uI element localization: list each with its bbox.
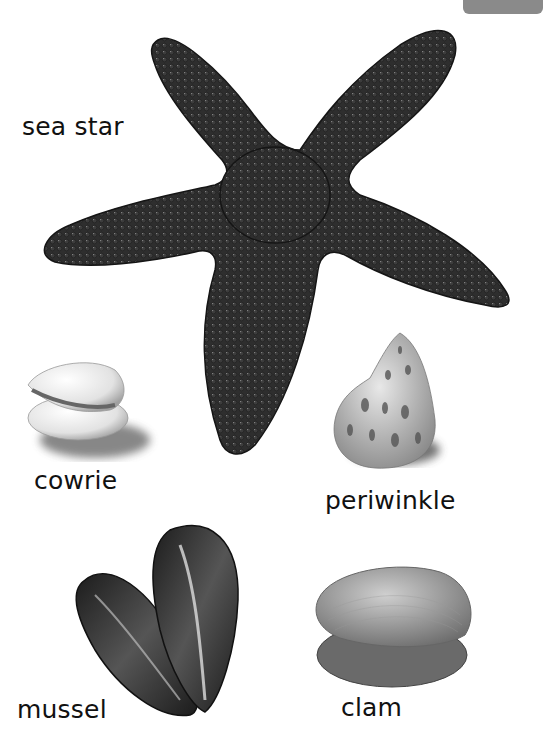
periwinkle-image — [334, 333, 440, 468]
mussel-image — [76, 526, 238, 716]
cowrie-image — [28, 363, 150, 458]
cowrie-label: cowrie — [34, 466, 117, 495]
clam-label: clam — [341, 693, 402, 722]
sea-star-label: sea star — [22, 112, 124, 141]
periwinkle-label: periwinkle — [325, 486, 456, 515]
mussel-label: mussel — [17, 695, 107, 724]
clam-image — [316, 567, 471, 687]
